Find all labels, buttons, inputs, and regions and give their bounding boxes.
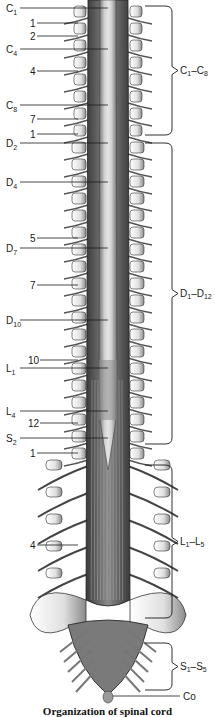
vertebra-left: [72, 380, 86, 391]
vertebra-right: [130, 57, 142, 68]
vertebra-left: [74, 57, 86, 68]
vertebra-right: [130, 295, 144, 306]
vertebra-right: [154, 541, 170, 551]
vertebra-left: [46, 541, 62, 551]
vertebra-right: [130, 397, 144, 408]
vertebra-right: [154, 514, 170, 524]
vertebra-right: [130, 193, 144, 204]
vertebra-left: [74, 108, 86, 119]
segment-label: D4: [6, 177, 17, 190]
segment-label: 1: [30, 18, 36, 29]
vertebra-right: [154, 568, 170, 578]
left-label: 1: [30, 18, 78, 29]
vertebra-right: [130, 210, 144, 221]
vertebra-right: [130, 278, 144, 289]
segment-label: 7: [30, 114, 36, 125]
spinal-column-illustration: [30, 0, 186, 703]
vertebra-right: [130, 108, 142, 119]
region-label: Co: [183, 691, 196, 702]
vertebra-left: [72, 176, 86, 187]
nerve-root-left: [38, 547, 88, 571]
vertebra-left: [72, 329, 86, 340]
vertebra-left: [72, 431, 86, 442]
vertebra-left: [72, 312, 86, 323]
vertebra-right: [130, 363, 144, 374]
segment-label: 2: [30, 31, 36, 42]
vertebra-left: [74, 23, 86, 34]
vertebra-right: [130, 40, 142, 51]
segment-label: 4: [30, 540, 36, 551]
region-label: L1–L5: [180, 536, 205, 548]
sacrum: [68, 620, 148, 695]
nerve-root-right: [128, 547, 178, 571]
vertebra-right: [130, 142, 144, 153]
segment-label: D10: [6, 315, 21, 328]
segment-label: S2: [6, 433, 17, 446]
vertebra-left: [72, 363, 86, 374]
segment-label: 12: [28, 418, 40, 429]
segment-label: C4: [6, 44, 17, 57]
vertebra-right: [130, 380, 144, 391]
segment-label: 4: [30, 66, 36, 77]
nerve-root-left: [38, 520, 88, 544]
vertebra-left: [72, 278, 86, 289]
vertebra-left: [72, 397, 86, 408]
segment-label: C1: [6, 3, 17, 16]
sacral-root-right: [120, 670, 140, 692]
vertebra-right: [130, 74, 142, 85]
vertebra-left: [72, 142, 86, 153]
left-label: 7: [30, 280, 78, 291]
left-label: 10: [28, 355, 78, 366]
segment-label: 10: [28, 355, 40, 366]
left-label: 7: [30, 114, 78, 125]
vertebra-right: [130, 431, 144, 442]
left-label: 1: [30, 448, 78, 459]
nerve-root-left: [64, 460, 88, 466]
coccyx: [103, 691, 113, 703]
left-label: 4: [30, 66, 78, 77]
segment-label: L1: [6, 363, 16, 376]
nerve-root-right: [128, 466, 178, 490]
vertebra-left: [46, 514, 62, 524]
segment-label: D2: [6, 138, 17, 151]
vertebra-right: [130, 91, 142, 102]
vertebra-left: [46, 487, 62, 497]
brace: [145, 643, 178, 690]
segment-label: 7: [30, 280, 36, 291]
vertebra-left: [72, 210, 86, 221]
segment-label: 1: [30, 129, 36, 140]
vertebra-right: [130, 176, 144, 187]
nerve-root-left: [38, 466, 88, 490]
segment-label: C8: [6, 100, 17, 113]
vertebra-left: [72, 244, 86, 255]
left-label: 1: [30, 129, 78, 140]
nerve-root-right: [128, 520, 178, 544]
vertebra-right: [130, 414, 144, 425]
segment-label: 1: [30, 448, 36, 459]
sacral-root-left: [76, 670, 96, 692]
segment-label: 5: [30, 233, 36, 244]
vertebra-left: [72, 346, 86, 357]
nerve-root-left: [38, 493, 88, 517]
vertebra-right: [130, 312, 144, 323]
vertebra-left: [74, 74, 86, 85]
vertebra-right: [130, 346, 144, 357]
vertebra-right: [130, 244, 144, 255]
vertebra-right: [130, 23, 142, 34]
region-label: C1–C8: [180, 65, 208, 77]
vertebra-right: [130, 448, 144, 459]
vertebra-right: [154, 487, 170, 497]
vertebra-left: [72, 261, 86, 272]
region-label: D1–D12: [180, 288, 212, 300]
region-label: S1–S5: [180, 661, 207, 673]
region-bracket: Co: [113, 691, 196, 702]
vertebra-right: [130, 227, 144, 238]
region-bracket: D1–D12: [145, 143, 212, 444]
vertebra-left: [72, 448, 86, 459]
segment-label: L4: [6, 406, 16, 419]
vertebra-left: [72, 227, 86, 238]
figure-caption: Organization of spinal cord: [0, 705, 215, 717]
left-label: 12: [28, 418, 78, 429]
brace: [145, 143, 178, 444]
